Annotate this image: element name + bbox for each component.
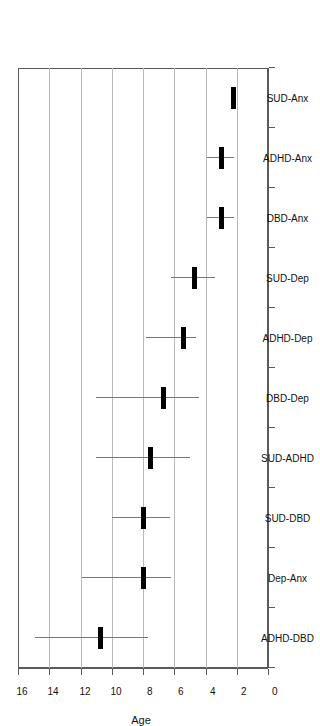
data-point (219, 147, 224, 169)
value-axis-tick (206, 669, 207, 675)
rotated-plot-wrapper: 0246810121416 ADHD-DBDDep-AnxSUD-DBDSUD-… (0, 0, 305, 721)
value-axis-tick (143, 669, 144, 675)
category-axis-tick (269, 547, 275, 548)
category-axis-tick (269, 127, 275, 128)
error-bar (35, 638, 148, 639)
plot-area (18, 68, 268, 668)
value-axis-tick-label: 8 (131, 686, 153, 697)
value-axis-tick-label: 2 (224, 686, 246, 697)
data-point (181, 327, 186, 349)
category-axis-label: ADHD-Dep (256, 333, 320, 344)
chart-canvas: 0246810121416 ADHD-DBDDep-AnxSUD-DBDSUD-… (0, 0, 305, 721)
value-axis-tick-label: 10 (99, 686, 121, 697)
value-axis-tick (237, 669, 238, 675)
value-axis-tick-label: 4 (193, 686, 215, 697)
value-axis-tick (81, 669, 82, 675)
category-axis-label: Dep-Anx (256, 573, 320, 584)
category-axis-label: ADHD-Anx (256, 153, 320, 164)
category-axis-label: ADHD-DBD (256, 633, 320, 644)
category-axis-label: DBD-Anx (256, 213, 320, 224)
value-axis-tick (268, 669, 269, 675)
category-axis-tick (269, 367, 275, 368)
value-axis-tick-label: 0 (256, 686, 278, 697)
gridline (49, 68, 50, 668)
data-point (192, 267, 197, 289)
value-axis-tick-label: 12 (68, 686, 90, 697)
value-axis-tick-label: 6 (162, 686, 184, 697)
value-axis-title: Age (121, 714, 161, 726)
gridline (174, 68, 175, 668)
value-axis-tick-label: 16 (6, 686, 28, 697)
value-axis-tick (18, 669, 19, 675)
category-axis-tick (269, 487, 275, 488)
error-bar (146, 338, 196, 339)
category-axis-label: SUD-Dep (256, 273, 320, 284)
gridline (237, 68, 238, 668)
value-axis-tick-label: 14 (37, 686, 59, 697)
category-axis-tick (269, 67, 275, 68)
data-point (141, 507, 146, 529)
category-axis-label: SUD-Anx (256, 93, 320, 104)
category-axis-tick (269, 247, 275, 248)
data-point (219, 207, 224, 229)
value-axis-tick (49, 669, 50, 675)
data-point (98, 627, 103, 649)
category-axis-tick (269, 427, 275, 428)
value-axis-tick (174, 669, 175, 675)
error-bar (82, 578, 171, 579)
data-point (141, 567, 146, 589)
category-axis-tick (269, 307, 275, 308)
data-point (148, 447, 153, 469)
data-point (231, 87, 236, 109)
category-axis-tick (269, 187, 275, 188)
category-axis-tick (269, 607, 275, 608)
category-axis-label: SUD-DBD (256, 513, 320, 524)
category-axis-label: SUD-ADHD (256, 453, 320, 464)
data-point (161, 387, 166, 409)
category-axis-tick (269, 667, 275, 668)
value-axis-tick (112, 669, 113, 675)
error-bar (96, 398, 199, 399)
error-bar (96, 458, 190, 459)
category-axis-label: DBD-Dep (256, 393, 320, 404)
